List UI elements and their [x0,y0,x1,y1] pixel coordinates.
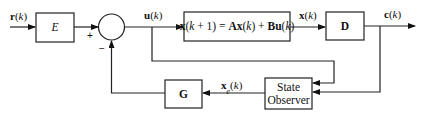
summing-junction [99,14,125,40]
svg-text:c(k): c(k) [384,8,401,21]
svg-text:r(k): r(k) [10,10,27,23]
plus-sign: + [87,30,93,41]
svg-text:x(k + 1) = Ax(k) + Bu(k): x(k + 1) = Ax(k) + Bu(k) [180,20,295,33]
prefilter-label: E [50,21,58,33]
gain-to-sum-feedback-wire [112,41,166,93]
svg-text:x(k): x(k) [299,9,317,22]
svg-text:u(k): u(k) [144,9,163,22]
control-signal-label: u(k) [144,9,163,22]
state-signal-label: x(k) [299,9,317,22]
minus-sign: − [99,43,105,54]
observer-label-line1: State [277,81,300,93]
gain-block-label: G [179,88,188,100]
plant-equation: x(k + 1) = Ax(k) + Bu(k) [180,20,295,33]
input-signal-label: r(k) [10,10,27,23]
block-diagram: r(k) E + − u(k) x(k + 1) = Ax(k) + Bu(k)… [0,0,421,115]
output-block-label: D [341,20,349,32]
observer-label-line2: Observer [267,94,309,106]
output-signal-label: c(k) [384,8,401,21]
